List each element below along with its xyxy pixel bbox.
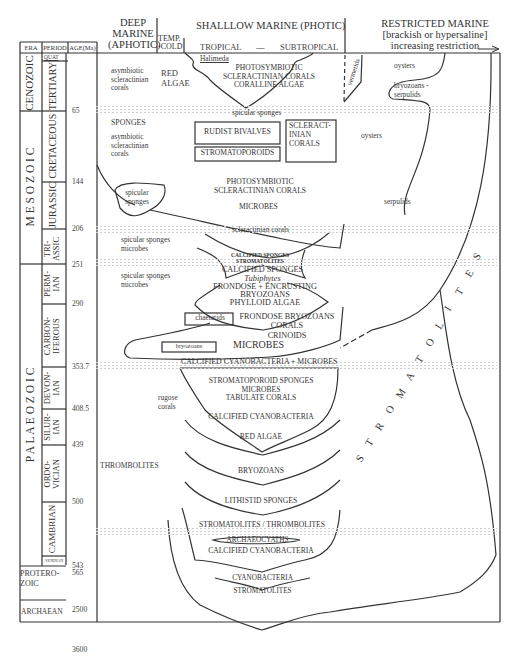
label-bryozoans-box: bryozoans [162,342,216,350]
label-bryozoans-ordovician: BRYOZOANS [195,467,327,476]
label-stromatoporoids: STROMATOPOROIDS [195,149,280,158]
restricted-line-1: RESTRICTED MARINE [370,18,500,29]
label-triassic-deep: spicular sponges microbes [121,236,170,253]
t3: corals [111,84,148,93]
header-temp-cold: TEMP. -COLD [158,35,184,52]
period-jurassic: JURASSIC [48,175,60,235]
col-period: PERIOD [42,44,68,51]
header-restricted-marine: RESTRICTED MARINE [brackish or hypersali… [370,18,500,51]
label-carboniferous-reef: FRONDOSE BRYOZOANS CORALS CRINOIDS [236,312,338,340]
label-archaeocyaths: ARCHAEOCYATHS [215,536,300,544]
age-206: 206 [72,224,83,233]
label-oysters-2: oysters [361,132,382,141]
t3: TABULATE CORALS [195,394,327,403]
silurian-line-2: IAN [52,407,61,447]
label-microbes-jurassic: MICROBES [239,203,278,212]
label-calc-cyano-devonian: CALCIFIED CYANOBACTERIA [195,413,327,422]
header-dash: — [256,42,265,52]
ordovician-line-2: VICIAN [52,449,61,499]
label-oysters-1: oysters [394,62,415,71]
temp-line-2: -COLD [158,43,184,51]
label-triassic-small: CALCIFIED SPONGES STROMATOLITES [225,252,295,264]
label-halimeda: Halimeda [200,55,229,64]
header-tropical: TROPICAL [200,42,242,52]
label-spicular-sponges-lobe: spicular sponges [125,189,149,206]
era-archaean: ARCHAEAN [21,607,63,616]
label-stromatolites-thrombolites: STROMATOLITES / THROMBOLITES [192,521,332,530]
age-565: 565 [72,568,83,577]
t2: sponges [125,198,149,207]
label-calc-cyano-cambrian: CALCIFIED CYANOBACTERIA [195,547,327,556]
era-proterozoic: PROTERO- ZOIC [20,569,59,588]
label-cyanobacteria: CYANOBACTERIA [215,574,310,582]
t3: CORALS [289,140,331,149]
header-subtropical: SUBTROPICAL [280,42,338,52]
permian-line-2: IAN [52,264,61,304]
restricted-line-3: increasing restriction [370,40,500,51]
t2: corals [158,403,178,412]
t2: serpulids [394,91,429,100]
label-sponges: SPONGES [111,118,146,127]
header-deep-marine: DEEP MARINE (APHOTIC) [108,17,158,50]
era-mesozoic: M E S O Z O I C [24,112,38,262]
period-cambrian: CAMBRIAN [48,499,60,559]
carboniferous-line-2: IFEROUS [52,306,61,366]
era-cenozoic: CENOZOIC [24,50,38,116]
label-microbes-carboniferous: MICROBES [233,339,284,350]
label-rugose-corals: rugose corals [158,394,178,411]
t3: PHYLLOID ALGAE [200,299,330,307]
label-cretaceous-deep: asymbiotic scleractinian corals [111,133,148,159]
label-red-algae-silurian: RED ALGAE [195,433,327,442]
age-65: 65 [72,106,80,115]
proterozoic-line-1: PROTERO- [20,569,59,579]
t2: microbes [121,245,170,254]
label-jurassic-reef: PHOTOSYMBIOTIC SCLERACTINIAN CORALS [200,178,320,195]
age-251: 251 [72,260,83,269]
header-shallow-marine: SHALLLOW MARINE (PHOTIC) [196,20,345,31]
age-290: 290 [72,299,83,308]
age-144: 144 [72,177,83,186]
t1: FRONDOSE BRYOZOANS [236,312,338,321]
age-2500: 2500 [72,605,87,614]
age-408: 408.5 [72,404,89,413]
proterozoic-line-2: ZOIC [20,579,59,589]
t3: corals [111,150,148,159]
period-ordovician: ORDO- VICIAN [43,449,65,499]
label-permian-deep: spicular sponges microbes [121,272,170,289]
col-age: AGE(Ma) [68,44,97,51]
deep-line-3: (APHOTIC) [108,39,158,50]
label-scleractinian-box: SCLERACT- INIAN CORALS [289,122,331,149]
label-serpulids: serpulids [384,198,411,207]
deep-line-1: DEEP [108,17,158,28]
label-permian-reef-1: CALCIFIED SPONGES [220,265,305,274]
t3: CORALLINE ALGAE [214,81,324,90]
label-spicular-sponges-top: spicular sponges [232,109,281,118]
label-permian-reef-2: FRONDOSE + ENCRUSTING BRYOZOANS PHYLLOID… [200,283,330,306]
devonian-line-2: IAN [52,368,61,408]
age-3600: 3600 [72,645,87,654]
label-bryozoans-serpulids: bryozoans - serpulids [394,82,429,99]
t2: SCLERACTINIAN CORALS [200,187,320,196]
period-devonian: DEVON- IAN [43,368,65,408]
t2: ALGAE [161,79,190,89]
period-vendian: VENDIAN [42,558,66,563]
period-permian: PERM- IAN [43,264,65,304]
label-calc-cyano-microbes: CALCIFIED CYANOBACTERIA + MICROBES [181,358,337,367]
deep-line-2: MARINE [108,28,158,39]
label-cenozoic-deep: asymbiotic scleractinian corals [111,67,148,93]
label-cenozoic-reef: PHOTOSYMBIOTIC SCLERACTINIAN CORALS CORA… [214,64,324,90]
period-carboniferous: CARBON- IFEROUS [43,306,65,366]
age-439: 439 [72,440,83,449]
t2: microbes [121,281,170,290]
label-rudist-bivalves: RUDIST BIVALVES [195,128,280,137]
label-devonian-reef: STROMATOPOROID SPONGES MICROBES TABULATE… [195,377,327,403]
boundary-band-65 [95,105,497,113]
label-scleractinian-corals-tri: scleractinian corals [232,226,289,235]
triassic-line-2: ASSIC [52,229,61,269]
era-palaeozoic: P A L A E O Z O I C [24,304,38,526]
label-chaetetids: chaetetids [188,314,232,323]
t2: STROMATOLITES [225,258,295,264]
restricted-line-2: [brackish or hypersaline] [370,29,500,40]
t2: CORALS [236,321,338,330]
period-triassic: TRI- ASSIC [43,229,65,269]
